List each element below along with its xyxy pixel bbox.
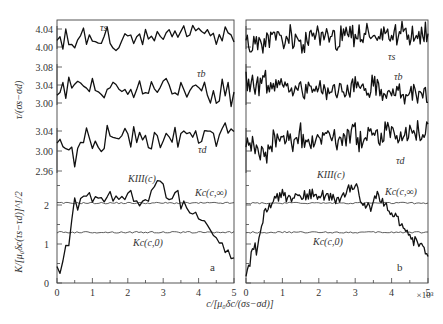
x-tick-label: 2: [125, 287, 130, 298]
upper-y-tick-label: 4.04: [36, 24, 54, 35]
label-kc-inf: Kc(c,∞): [384, 186, 418, 198]
label-tau-b: τb: [197, 68, 206, 79]
label-tau-d: τd: [198, 144, 208, 155]
x-tick-label: 3: [353, 287, 358, 298]
lower-y-axis-label: K/[μ₀δc(τs−τd)]^1/2: [13, 191, 25, 273]
panel-b: 012345τsτbτdKIII(c)Kc(c,∞)Kc(c,0)b: [244, 20, 431, 298]
panel-label-a: a: [210, 261, 215, 273]
x-tick-label: 0: [244, 287, 249, 298]
x-tick-label: 4: [389, 287, 394, 298]
kc-infinity-line: [57, 202, 234, 204]
upper-y-tick-label: 3.04: [36, 80, 54, 91]
label-k3: KIII(c): [316, 169, 345, 181]
upper-y-tick-label: 4.00: [36, 42, 54, 53]
kc-zero-line: [246, 232, 428, 234]
upper-y-axis-label: τ/(σs−σd): [13, 80, 25, 119]
label-kc-0: Kc(c,0): [312, 236, 343, 248]
series-τs: [57, 25, 234, 50]
panel-a: 0123450124.004.043.003.043.082.963.003.0…: [36, 20, 237, 298]
label-tau-d: τd: [396, 155, 406, 166]
x-tick-label: 4: [196, 287, 201, 298]
upper-y-tick-label: 3.04: [36, 126, 54, 137]
label-kc-inf: Kc(c,∞): [194, 187, 228, 199]
label-tau-s: τs: [388, 51, 396, 62]
lower-y-tick-label: 2: [44, 200, 49, 211]
lower-y-tick-label: 1: [44, 239, 49, 250]
label-tau-s: τs: [100, 22, 108, 33]
x-tick-label: 3: [161, 287, 166, 298]
series-τs: [246, 21, 428, 53]
upper-y-tick-label: 3.00: [36, 98, 54, 109]
lower-y-tick-label: 0: [44, 278, 49, 289]
x-tick-label: 2: [316, 287, 321, 298]
kc-zero-line: [57, 232, 234, 234]
x-tick-label: 1: [280, 287, 285, 298]
x-tick-label: 1: [90, 287, 95, 298]
x-tick-label: 0: [55, 287, 60, 298]
label-tau-b: τb: [394, 71, 403, 82]
upper-y-tick-label: 2.96: [36, 166, 54, 177]
figure: 0123450124.004.043.003.043.082.963.003.0…: [0, 0, 443, 324]
x-multiplier: ×10³: [417, 290, 434, 300]
x-axis-label: c/[μ₀δc/(σs−σd)]: [206, 298, 274, 310]
x-tick-label: 5: [232, 287, 237, 298]
label-kc-0: Kc(c,0): [132, 237, 163, 249]
series-τd: [57, 123, 234, 167]
label-k3: KIII(c): [127, 173, 156, 185]
series-τb: [57, 77, 234, 106]
upper-y-tick-label: 3.08: [36, 62, 54, 73]
upper-y-tick-label: 3.00: [36, 146, 54, 157]
panel-label-b: b: [397, 261, 403, 273]
